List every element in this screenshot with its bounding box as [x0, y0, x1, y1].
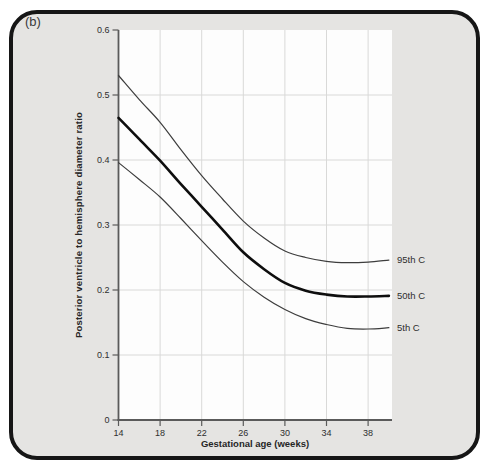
x-axis-title: Gestational age (weeks): [118, 438, 392, 449]
curve-label: 5th C: [397, 322, 420, 333]
y-tick-label: 0.6: [97, 25, 110, 35]
x-tick-label: 26: [238, 428, 248, 438]
y-tick-label: 0.2: [97, 285, 110, 295]
x-tick-label: 38: [363, 428, 373, 438]
y-tick-label: 0.1: [97, 350, 110, 360]
percentile-chart: 00.10.20.30.40.50.61418222630343895th C5…: [0, 0, 490, 473]
x-tick-label: 22: [197, 428, 207, 438]
y-tick-label: 0.5: [97, 90, 110, 100]
x-tick-label: 34: [321, 428, 331, 438]
y-tick-label: 0.3: [97, 220, 110, 230]
x-tick-label: 14: [113, 428, 123, 438]
curve-label: 50th C: [397, 290, 425, 301]
curve-label: 95th C: [397, 254, 425, 265]
y-tick-label: 0.4: [97, 155, 110, 165]
x-tick-label: 18: [155, 428, 165, 438]
x-tick-label: 30: [280, 428, 290, 438]
y-tick-label: 0: [104, 415, 109, 425]
